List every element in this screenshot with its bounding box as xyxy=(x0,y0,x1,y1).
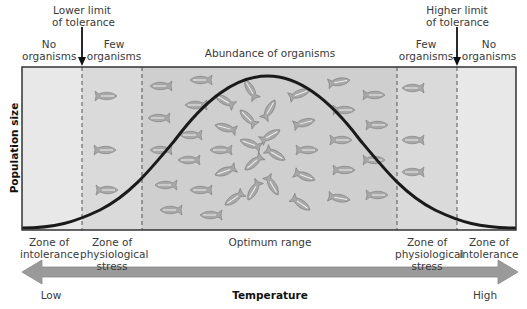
zone-intolerance-low xyxy=(22,67,82,230)
higher-limit-label: Higher limit of tolerance xyxy=(426,4,488,28)
zone-intolerance-high xyxy=(457,67,516,230)
few-organisms-label-right: Few organisms xyxy=(398,38,454,62)
zone-stress-label-left: Zone of physiological stress xyxy=(80,236,144,272)
few-organisms-label-left: Few organisms xyxy=(86,38,142,62)
zone-intolerance-label-right: Zone of intolerance xyxy=(459,236,519,260)
y-axis-label: Population size xyxy=(8,98,20,198)
lower-limit-label: Lower limit of tolerance xyxy=(52,4,112,28)
temperature-label: Temperature xyxy=(220,289,320,301)
down-arrow-icon xyxy=(78,27,86,66)
abundance-label: Abundance of organisms xyxy=(190,47,350,59)
low-label: Low xyxy=(36,289,66,301)
high-label: High xyxy=(470,289,500,301)
zone-stress-label-right: Zone of physiological stress xyxy=(395,236,459,272)
zone-intolerance-label-left: Zone of intolerance xyxy=(20,236,78,260)
no-organisms-label-right: No organisms xyxy=(461,38,517,62)
down-arrow-icon xyxy=(453,27,461,66)
optimum-range-label: Optimum range xyxy=(220,236,320,248)
no-organisms-label-left: No organisms xyxy=(22,38,76,62)
